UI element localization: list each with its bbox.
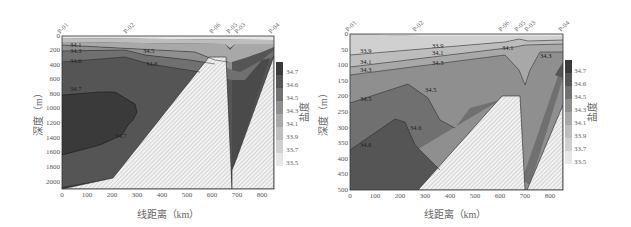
- contour-label: 34.5: [143, 47, 154, 54]
- right-colorbar: 34.7 34.6 34.5 34.3 34.1 33.9 33.7 33.5 …: [565, 60, 598, 166]
- y-tick: 200: [338, 92, 349, 100]
- colorbar-tick: 34.6: [286, 81, 299, 89]
- x-tick: 400: [445, 192, 456, 200]
- station-label: P-06: [497, 19, 511, 33]
- colorbar-label: 盐度: [298, 102, 310, 122]
- colorbar-tick: 33.5: [286, 159, 299, 167]
- x-tick: 200: [107, 191, 118, 199]
- right-chart: 33.9 33.9 34.1 34.1 34.1 34.3 34.3 34.3 …: [317, 19, 598, 220]
- contour-label: 34.6: [410, 124, 422, 131]
- colorbar-tick: 33.7: [286, 146, 299, 154]
- colorbar-tick: 33.9: [574, 132, 587, 140]
- left-colorbar: 34.7 34.6 34.5 34.3 34.1 33.9 33.7 33.5 …: [276, 62, 310, 167]
- colorbar-tick: 34.5: [286, 94, 299, 102]
- x-tick: 300: [420, 192, 431, 200]
- y-tick: 150: [338, 77, 349, 85]
- colorbar-tick: 33.9: [286, 133, 299, 141]
- right-plot-area: [350, 34, 563, 190]
- x-tick: 0: [60, 191, 64, 199]
- station-label: P-01: [344, 19, 358, 33]
- y-tick: 1600: [46, 148, 61, 156]
- left-stations: P-01 P-02 P-06 P-05 P-03 P-04: [56, 21, 281, 35]
- colorbar-label: 盐度: [586, 102, 598, 122]
- contour-label: 34.7: [115, 132, 127, 139]
- y-axis-label: 深度（m）: [317, 88, 329, 136]
- y-tick: 50: [341, 46, 349, 54]
- colorbar-tick: 33.7: [574, 145, 587, 153]
- colorbar-tick: 34.6: [574, 80, 587, 88]
- station-label: P-04: [267, 21, 281, 35]
- right-y-axis: 0 50 100 150 200 250 300 350 400 450 500…: [317, 30, 349, 194]
- x-tick: 800: [257, 191, 268, 199]
- y-tick: 200: [50, 46, 61, 54]
- left-plot-area: [62, 36, 274, 189]
- y-tick: 400: [50, 61, 61, 69]
- left-y-axis: 0 200 400 600 800 1000 1200 1400 1600 18…: [32, 32, 61, 186]
- contour-label: 34.7: [70, 85, 82, 92]
- x-tick: 800: [545, 192, 556, 200]
- y-tick: 1800: [46, 163, 61, 171]
- colorbar-tick: 34.7: [574, 67, 587, 75]
- x-tick: 700: [520, 192, 531, 200]
- station-label: P-04: [557, 19, 571, 33]
- colorbar-tick: 34.1: [286, 120, 299, 128]
- contour-label: 34.6: [146, 60, 158, 67]
- colorbar-tick: 34.3: [574, 106, 587, 114]
- colorbar-tick: 34.5: [574, 93, 587, 101]
- x-tick: 500: [182, 191, 193, 199]
- station-label: P-03: [523, 19, 537, 33]
- left-x-axis: 0 100 200 300 400 500 600 700 800 线距离（km…: [60, 191, 268, 220]
- colorbar-tick: 34.7: [286, 68, 299, 76]
- station-label: P-02: [122, 21, 136, 35]
- station-label: P-01: [56, 21, 70, 35]
- contour-label: 34.5: [360, 95, 371, 102]
- station-label: P-02: [411, 19, 425, 33]
- contour-label: 34.1: [432, 49, 443, 56]
- x-tick: 0: [348, 192, 352, 200]
- contour-label: 33.9: [360, 47, 371, 54]
- station-label: P-06: [208, 21, 222, 35]
- contour-label: 33.9: [432, 42, 443, 49]
- y-axis-label: 深度（m）: [32, 88, 44, 136]
- y-tick: 800: [50, 90, 61, 98]
- x-tick: 300: [132, 191, 143, 199]
- contour-label: 34.3: [540, 52, 551, 59]
- y-tick: 100: [338, 61, 349, 69]
- figure: 34.1 34.3 34.5 34.6 34.6 34.7 34.7 0 200…: [0, 0, 631, 227]
- x-tick: 600: [207, 191, 218, 199]
- contour-label: 34.6: [360, 141, 372, 148]
- contour-label: 34.1: [502, 44, 513, 51]
- y-tick: 450: [338, 170, 349, 178]
- x-tick: 100: [370, 192, 381, 200]
- x-axis-label: 线距离（km）: [424, 208, 487, 220]
- y-tick: 350: [338, 139, 349, 147]
- y-tick: 500: [338, 186, 349, 194]
- right-x-axis: 0 100 200 300 400 500 600 700 800 线距离（km…: [348, 192, 556, 220]
- y-tick: 400: [338, 155, 349, 163]
- y-tick: 250: [338, 108, 349, 116]
- x-tick: 100: [82, 191, 93, 199]
- contour-label: 34.3: [360, 66, 371, 73]
- contour-label: 34.6: [70, 57, 82, 64]
- y-tick: 600: [50, 75, 61, 83]
- contour-label: 34.3: [70, 47, 81, 54]
- colorbar-tick: 34.1: [574, 119, 587, 127]
- x-tick: 700: [232, 191, 243, 199]
- y-tick: 1000: [46, 104, 61, 112]
- x-tick: 400: [157, 191, 168, 199]
- colorbar-tick: 33.5: [574, 158, 587, 166]
- y-tick: 300: [338, 124, 349, 132]
- x-tick: 200: [395, 192, 406, 200]
- left-chart: 34.1 34.3 34.5 34.6 34.6 34.7 34.7 0 200…: [32, 21, 310, 220]
- contour-label: 34.5: [425, 86, 436, 93]
- y-tick: 2000: [46, 178, 61, 186]
- x-tick: 500: [470, 192, 481, 200]
- x-tick: 600: [495, 192, 506, 200]
- colorbar-tick: 34.3: [286, 107, 299, 115]
- y-tick: 1400: [46, 134, 61, 142]
- contour-label: 34.1: [360, 58, 371, 65]
- x-axis-label: 线距离（km）: [137, 208, 200, 220]
- contour-label: 34.3: [432, 59, 443, 66]
- right-stations: P-01 P-02 P-06 P-05 P-03 P-04: [344, 19, 571, 33]
- y-tick: 1200: [46, 119, 61, 127]
